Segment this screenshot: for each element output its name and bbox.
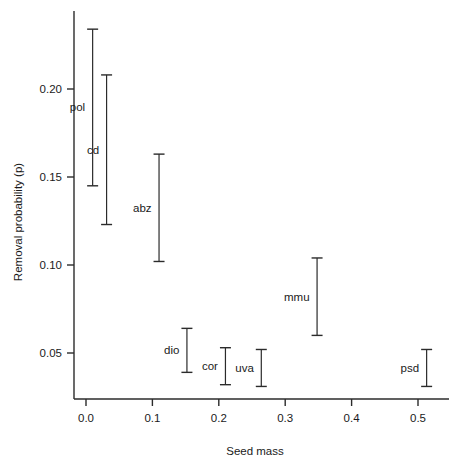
x-axis-title: Seed mass	[226, 445, 284, 457]
error-bar-cd: cd	[87, 75, 112, 225]
axes-group	[74, 11, 449, 399]
point-label-cd: cd	[87, 144, 99, 156]
x-tick-label: 0.4	[344, 412, 361, 424]
point-label-abz: abz	[133, 202, 152, 214]
y-tick-label: 0.10	[40, 259, 62, 271]
point-label-pol: pol	[70, 101, 85, 113]
point-label-cor: cor	[202, 360, 218, 372]
error-bar-mmu: mmu	[284, 258, 323, 335]
y-tick-label: 0.05	[40, 347, 62, 359]
error-bar-psd: psd	[401, 349, 433, 386]
x-tick-label: 0.2	[211, 412, 227, 424]
x-axis-ticks: 0.00.10.20.30.40.5	[78, 399, 426, 424]
y-tick-label: 0.15	[40, 171, 62, 183]
x-tick-label: 0.0	[78, 412, 94, 424]
error-bar-series: polcdabzdiocoruvammupsd	[70, 29, 432, 386]
error-bar-uva: uva	[235, 349, 267, 386]
error-bar-abz: abz	[133, 154, 165, 261]
seed-mass-removal-probability-plot: 0.050.100.150.20 0.00.10.20.30.40.5 polc…	[0, 0, 455, 467]
point-label-uva: uva	[235, 362, 254, 374]
point-label-dio: dio	[164, 344, 179, 356]
x-tick-label: 0.1	[144, 412, 160, 424]
point-label-mmu: mmu	[284, 291, 310, 303]
y-axis-ticks: 0.050.100.150.20	[40, 83, 74, 359]
figure-panel: 0.050.100.150.20 0.00.10.20.30.40.5 polc…	[0, 0, 455, 467]
y-axis-title: Removal probability (p)	[12, 163, 24, 281]
error-bar-dio: dio	[164, 328, 192, 372]
x-tick-label: 0.3	[277, 412, 293, 424]
point-label-psd: psd	[401, 362, 420, 374]
x-tick-label: 0.5	[410, 412, 426, 424]
y-tick-label: 0.20	[40, 83, 62, 95]
error-bar-cor: cor	[202, 348, 231, 385]
